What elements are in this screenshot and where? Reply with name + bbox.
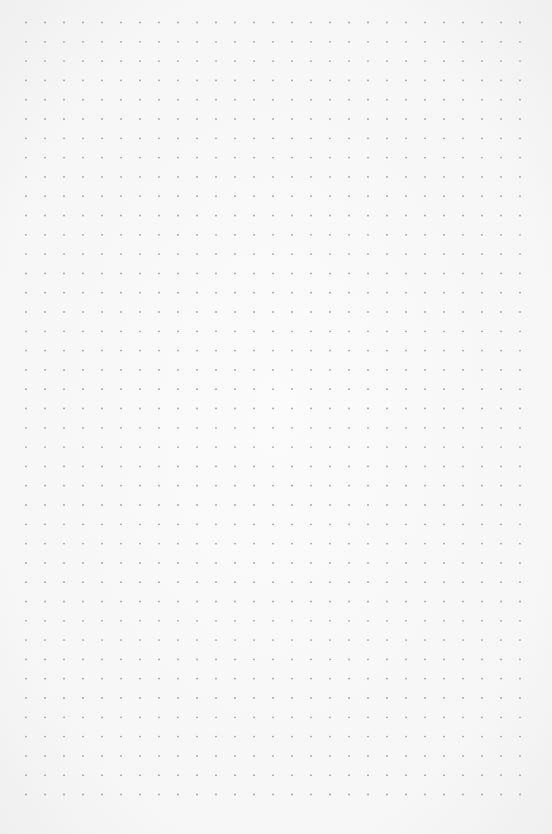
grid-dot	[63, 118, 65, 120]
grid-dot	[348, 60, 350, 62]
grid-dot	[120, 137, 122, 139]
grid-dot	[310, 446, 312, 448]
grid-dot	[158, 388, 160, 390]
grid-dot	[25, 157, 27, 159]
grid-dot	[82, 215, 84, 217]
grid-dot	[367, 485, 369, 487]
grid-dot	[177, 427, 179, 429]
grid-dot	[272, 22, 274, 24]
grid-dot	[500, 794, 502, 796]
grid-dot	[481, 504, 483, 506]
grid-dot	[63, 157, 65, 159]
grid-dot	[177, 311, 179, 313]
grid-dot	[25, 80, 27, 82]
grid-dot	[367, 157, 369, 159]
grid-dot	[253, 41, 255, 43]
grid-dot	[177, 234, 179, 236]
grid-dot	[177, 350, 179, 352]
grid-dot	[44, 99, 46, 101]
grid-dot	[443, 388, 445, 390]
grid-dot	[386, 504, 388, 506]
grid-dot	[253, 215, 255, 217]
grid-dot	[462, 678, 464, 680]
grid-dot	[44, 697, 46, 699]
grid-dot	[462, 639, 464, 641]
grid-dot	[139, 292, 141, 294]
grid-dot	[481, 388, 483, 390]
grid-dot	[310, 639, 312, 641]
grid-dot	[63, 736, 65, 738]
grid-dot	[101, 60, 103, 62]
grid-dot	[481, 215, 483, 217]
grid-dot	[101, 253, 103, 255]
grid-dot	[500, 80, 502, 82]
grid-dot	[120, 80, 122, 82]
grid-dot	[63, 234, 65, 236]
grid-dot	[44, 678, 46, 680]
grid-dot	[519, 678, 521, 680]
grid-dot	[63, 466, 65, 468]
grid-dot	[25, 253, 27, 255]
grid-dot	[82, 369, 84, 371]
grid-dot	[82, 678, 84, 680]
grid-dot	[329, 523, 331, 525]
grid-dot	[462, 137, 464, 139]
grid-dot	[310, 330, 312, 332]
grid-dot	[101, 543, 103, 545]
grid-dot	[310, 388, 312, 390]
grid-dot	[25, 523, 27, 525]
grid-dot	[158, 504, 160, 506]
grid-dot	[462, 22, 464, 24]
grid-dot	[310, 408, 312, 410]
grid-dot	[120, 157, 122, 159]
grid-dot	[519, 253, 521, 255]
grid-dot	[120, 215, 122, 217]
grid-dot	[424, 523, 426, 525]
grid-dot	[424, 253, 426, 255]
grid-dot	[462, 543, 464, 545]
grid-dot	[424, 330, 426, 332]
grid-dot	[348, 581, 350, 583]
grid-dot	[481, 273, 483, 275]
grid-dot	[234, 60, 236, 62]
grid-dot	[253, 639, 255, 641]
grid-dot	[443, 273, 445, 275]
grid-dot	[386, 99, 388, 101]
grid-dot	[215, 234, 217, 236]
grid-dot	[500, 41, 502, 43]
grid-dot	[462, 581, 464, 583]
grid-dot	[500, 60, 502, 62]
grid-dot	[215, 620, 217, 622]
grid-dot	[462, 523, 464, 525]
grid-dot	[481, 581, 483, 583]
grid-dot	[348, 794, 350, 796]
grid-dot	[120, 60, 122, 62]
grid-dot	[310, 215, 312, 217]
grid-dot	[101, 794, 103, 796]
grid-dot	[63, 659, 65, 661]
grid-dot	[443, 427, 445, 429]
grid-dot	[405, 330, 407, 332]
grid-dot	[424, 466, 426, 468]
grid-dot	[177, 446, 179, 448]
grid-dot	[329, 620, 331, 622]
grid-dot	[424, 755, 426, 757]
grid-dot	[234, 253, 236, 255]
grid-dot	[139, 427, 141, 429]
grid-dot	[196, 427, 198, 429]
grid-dot	[101, 195, 103, 197]
grid-dot	[215, 736, 217, 738]
grid-dot	[101, 41, 103, 43]
grid-dot	[405, 755, 407, 757]
grid-dot	[82, 427, 84, 429]
grid-dot	[101, 273, 103, 275]
grid-dot	[120, 774, 122, 776]
grid-dot	[82, 523, 84, 525]
grid-dot	[234, 215, 236, 217]
grid-dot	[481, 176, 483, 178]
grid-dot	[234, 639, 236, 641]
grid-dot	[310, 774, 312, 776]
grid-dot	[367, 60, 369, 62]
grid-dot	[424, 157, 426, 159]
grid-dot	[101, 697, 103, 699]
